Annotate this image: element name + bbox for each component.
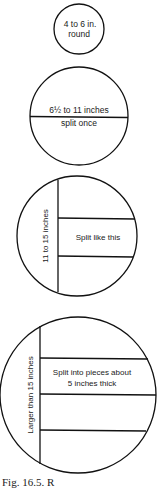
horizontal-split-line <box>58 218 135 219</box>
large-log-circle: 11 to 15 inches Split like this <box>17 176 137 296</box>
xlarge-log-method-label-1: Split into pieces about <box>53 368 132 377</box>
horizontal-split-line <box>40 358 148 359</box>
medium-log-circle: 6½ to 11 inches split once <box>30 67 128 165</box>
medium-log-size-label: 6½ to 11 inches <box>49 105 108 115</box>
xlarge-log-method-label-2: 5 inches thick <box>68 379 117 388</box>
horizontal-split-line <box>40 394 156 395</box>
xlarge-log-size-label: Larger than 15 inches <box>26 356 35 433</box>
xlarge-log-circle: Larger than 15 inches Split into pieces … <box>0 317 156 473</box>
figure-caption: Fig. 16.5. R <box>2 476 54 488</box>
horizontal-split-line <box>40 430 146 431</box>
medium-log-method-label: split once <box>61 118 97 128</box>
small-log-method-label: round <box>68 29 90 39</box>
horizontal-split-line <box>58 256 133 257</box>
small-log-size-label: 4 to 6 in. <box>64 19 97 29</box>
small-log-circle: 4 to 6 in. round <box>54 4 104 54</box>
large-log-size-label: 11 to 15 inches <box>41 209 50 263</box>
large-log-method-label: Split like this <box>76 233 120 242</box>
